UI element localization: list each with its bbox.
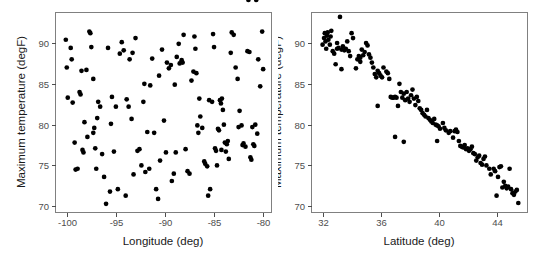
data-point [157,73,162,78]
data-point [82,120,87,125]
data-point [401,139,406,144]
y-tick-label: 70 [38,201,49,212]
data-point [349,31,354,36]
data-point [212,45,217,50]
data-point [70,100,75,105]
data-point [98,104,103,109]
data-point [127,57,132,62]
data-point [231,33,236,38]
data-point [438,126,443,131]
data-point [362,50,367,55]
scatter-panel-longitude: -100-95-90-85-807075808590Longitude (deg… [0,0,278,258]
data-point [102,175,107,180]
data-point [365,43,370,48]
data-point [328,42,333,47]
y-tick-label: 85 [38,79,49,90]
data-point [131,172,136,177]
data-point [141,99,146,104]
data-point [69,57,74,62]
data-point [109,121,114,126]
data-point [114,104,119,109]
data-point-group [63,0,265,206]
y-axis-title: Maximum temperature (degF) [15,36,27,188]
y-tick-label: 75 [38,160,49,171]
x-tick-label: 32 [318,217,329,228]
data-point [189,78,194,83]
data-point [206,193,211,198]
data-point [385,71,390,76]
data-point [217,128,222,133]
data-point [488,172,493,177]
data-point [64,65,69,70]
data-point [158,158,163,163]
data-point [124,97,129,102]
data-point [249,157,254,162]
scatter-panel-latitude: 323640447075808590Latitude (deg)Maximum … [278,0,551,258]
data-point [397,81,402,86]
data-point [324,46,329,51]
data-point [110,95,115,100]
data-point [448,129,453,134]
data-point [169,63,174,68]
data-point [223,149,228,154]
data-point [183,147,188,152]
data-point [243,144,248,149]
data-point [123,193,128,198]
data-point [215,163,220,168]
data-point [162,118,167,123]
data-point [160,47,165,52]
data-point [91,77,96,82]
data-point [368,55,373,60]
data-point [396,104,401,109]
panel-border [312,13,528,213]
right-plot-content: 323640447075808590Latitude (deg)Maximum … [278,13,528,248]
data-point [375,104,380,109]
data-point [207,98,212,103]
data-point [348,54,353,59]
data-point [410,87,415,92]
data-point [192,34,197,39]
data-point [480,162,485,167]
data-point [509,187,514,192]
data-point [142,81,147,86]
x-axis-title: Latitude (deg) [384,235,455,247]
data-point [256,57,261,62]
data-point [507,166,512,171]
y-tick-label: 80 [38,120,49,131]
data-point [515,188,520,193]
data-point [252,144,257,149]
data-point [416,99,421,104]
data-point [477,153,482,158]
y-tick-label: 75 [294,160,305,171]
data-point [226,157,231,162]
data-point [237,108,242,113]
data-point [328,34,333,39]
x-axis-title: Longitude (deg) [123,235,204,247]
data-point [394,95,399,100]
data-point [193,46,198,51]
data-point [88,31,93,36]
data-point [393,135,398,140]
data-point [219,101,224,106]
data-point [75,166,80,171]
data-point [338,15,343,20]
data-point [414,95,419,100]
data-point [137,147,142,152]
data-point [333,62,338,67]
data-point [441,121,446,126]
y-axis-title: Maximum temperature (degF) [278,36,283,188]
y-tick-label: 90 [38,38,49,49]
data-point [205,164,210,169]
data-point [198,114,203,119]
data-point [94,166,99,171]
data-point [152,130,157,135]
data-point [246,0,251,2]
data-point [354,66,359,71]
data-point [115,187,120,192]
data-point [106,46,111,51]
data-point [432,117,437,122]
data-point [483,154,488,159]
data-point [129,117,134,122]
data-point [211,32,216,37]
y-tick-label: 70 [294,201,305,212]
